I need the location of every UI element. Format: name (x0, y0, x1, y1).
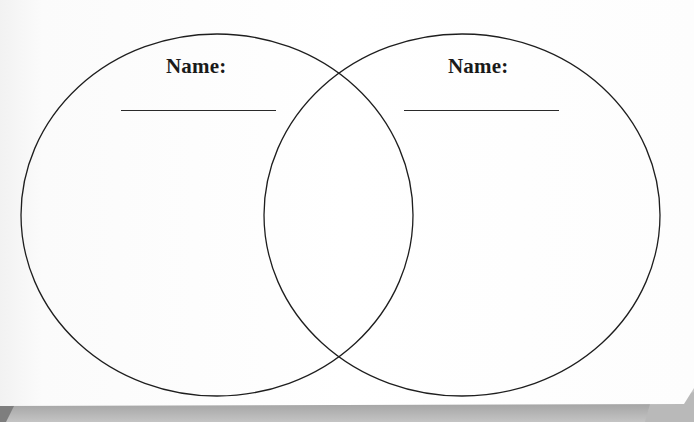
right-only-region[interactable] (440, 140, 640, 340)
left-set-name-label: Name: (166, 54, 226, 79)
left-set-name-blank[interactable] (121, 110, 276, 111)
left-only-region[interactable] (40, 140, 240, 340)
right-set-name-blank[interactable] (404, 110, 559, 111)
right-set-name-label: Name: (448, 54, 508, 79)
overlap-region[interactable] (285, 110, 395, 320)
photo-background: Name: Name: (0, 0, 694, 422)
